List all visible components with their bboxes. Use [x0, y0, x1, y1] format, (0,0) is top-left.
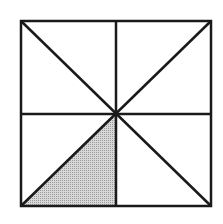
divided-square-diagram: [0, 0, 223, 224]
